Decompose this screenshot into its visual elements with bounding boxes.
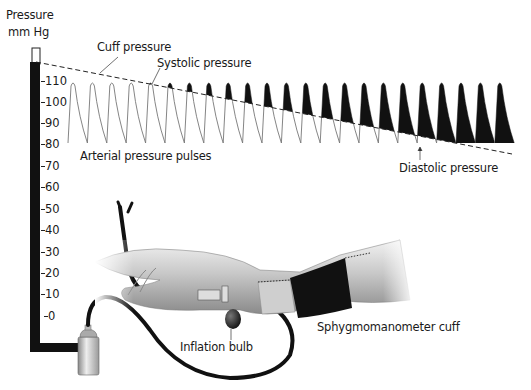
tick-label: 80 (45, 137, 60, 151)
inflation-bulb-icon (225, 309, 241, 340)
tick-label: 70 (45, 159, 60, 173)
bulb-label: Inflation bulb (180, 340, 253, 354)
tick-label: 40 (45, 223, 60, 237)
tick-label: 30 (45, 245, 60, 259)
cuff-pressure-label: Cuff pressure (97, 40, 171, 54)
cuff-label: Sphygmomanometer cuff (317, 320, 460, 334)
tick-label: 50 (45, 202, 60, 216)
tick-label: 90 (45, 116, 60, 130)
tick-label: 0 (48, 309, 55, 323)
axis-title-line1: Pressure (6, 8, 54, 22)
systolic-pressure-label: Systolic pressure (157, 56, 251, 70)
manometer-column (30, 48, 82, 352)
tick-label: 60 (45, 180, 60, 194)
annotation-leaders (100, 57, 422, 160)
arterial-pulses-label: Arterial pressure pulses (80, 149, 211, 163)
patient-arm (95, 240, 415, 320)
tick-label: 20 (45, 266, 60, 280)
axis-title-line2: mm Hg (8, 25, 49, 39)
tick-label: 10 (45, 287, 60, 301)
diastolic-pressure-label: Diastolic pressure (399, 161, 498, 175)
arterial-pressure-waveform (68, 83, 514, 143)
tick-label: 110 (45, 74, 67, 88)
tick-label: 100 (45, 95, 67, 109)
mercury-reservoir-icon (78, 325, 99, 375)
